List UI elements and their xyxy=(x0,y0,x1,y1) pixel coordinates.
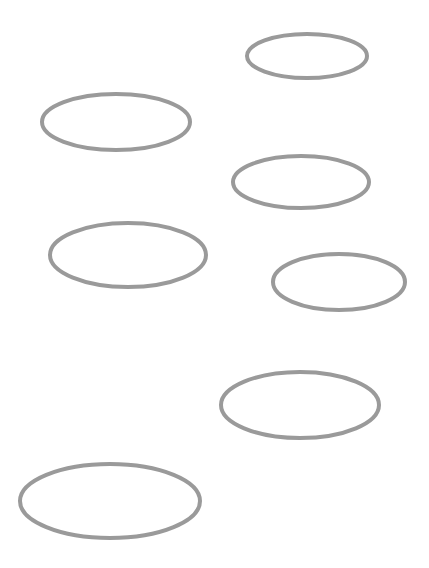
ellipse-shape-2 xyxy=(42,94,190,150)
drawing-canvas xyxy=(0,0,429,568)
ellipse-shape-7 xyxy=(20,464,200,538)
ellipse-shape-5 xyxy=(273,254,405,310)
ellipse-shape-1 xyxy=(247,34,367,78)
ellipse-shape-3 xyxy=(233,156,369,208)
ellipse-shape-4 xyxy=(50,223,206,287)
ellipse-shape-6 xyxy=(221,372,379,438)
shapes-layer xyxy=(20,34,405,538)
